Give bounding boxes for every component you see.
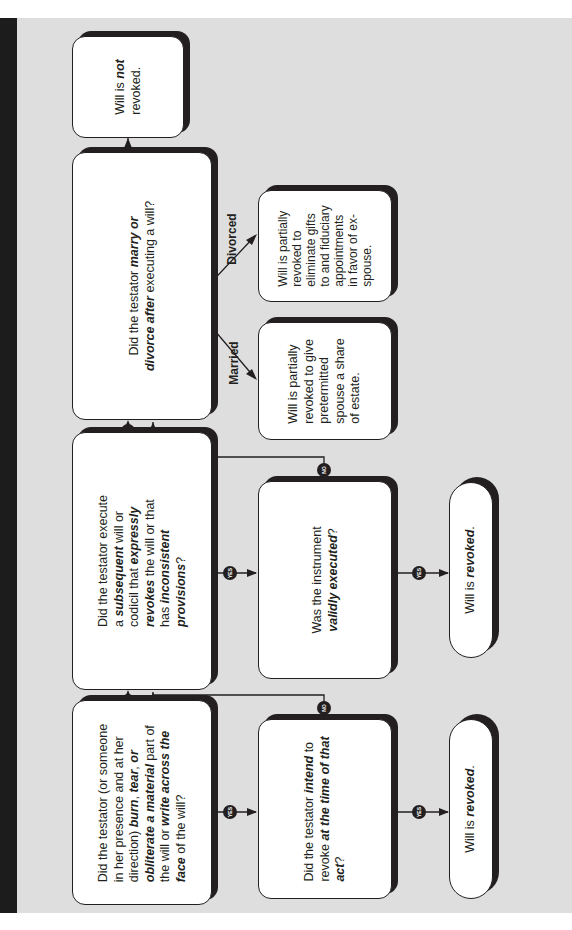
outcome-box-married: Will is partially revoked to give preter… [258, 322, 392, 440]
branch-label-divorced: Divorced [225, 213, 239, 264]
decision-text-subsequent-instrument: Did the testator execute a subsequent wi… [96, 495, 189, 627]
outcome-box-revoked-physical: Will is revoked. [449, 719, 493, 899]
outcome-text-divorced: Will is partially revoked to eliminate g… [276, 205, 374, 286]
outcome-text-not-revoked: Will is not revoked. [113, 59, 144, 115]
outcome-box-divorced: Will is partially revoked to eliminate g… [258, 190, 392, 302]
decision-box-intent: Did the testator intend to revoke at the… [258, 719, 392, 899]
yes-badge-q1: YES [223, 805, 237, 819]
decision-text-physical-act: Did the testator (or someone in her pres… [96, 723, 189, 881]
outcome-text-married: Will is partially revoked to give preter… [286, 338, 364, 423]
no-badge-intent: NO [317, 701, 331, 715]
yes-badge-q2: YES [223, 566, 237, 580]
decision-text-marry-divorce: Did the testator marry or divorce after … [127, 201, 158, 371]
decision-box-marry-divorce: Did the testator marry or divorce after … [72, 152, 212, 420]
outcome-text-revoked-physical: Will is revoked. [463, 765, 479, 853]
yes-badge-valid: YES [412, 566, 426, 580]
decision-box-physical-act: Did the testator (or someone in her pres… [72, 700, 212, 905]
outcome-box-revoked-instrument: Will is revoked. [449, 482, 493, 658]
yes-badge-intent: YES [412, 805, 426, 819]
no-badge-valid: NO [317, 463, 331, 477]
outcome-text-revoked-instrument: Will is revoked. [463, 526, 479, 614]
outcome-box-not-revoked: Will is not revoked. [72, 36, 184, 138]
decision-box-subsequent-instrument: Did the testator execute a subsequent wi… [72, 432, 212, 690]
decision-text-validly-executed: Was the instrument validly executed? [310, 526, 341, 633]
branch-label-married: Married [227, 341, 241, 384]
decision-text-intent: Did the testator intend to revoke at the… [302, 736, 349, 881]
decision-box-validly-executed: Was the instrument validly executed? [258, 481, 392, 679]
